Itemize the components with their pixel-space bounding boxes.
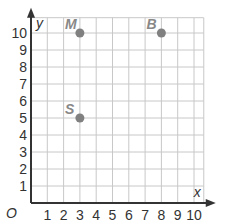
- x-tick-label: 2: [60, 207, 68, 222]
- x-tick-label: 1: [43, 207, 51, 222]
- y-tick-label: 8: [19, 59, 27, 75]
- x-tick-label: 5: [109, 207, 117, 222]
- point-m-label: M: [65, 16, 77, 32]
- x-tick-label: 9: [174, 207, 182, 222]
- y-tick-label: 4: [19, 127, 27, 143]
- y-tick-label: 9: [19, 42, 27, 58]
- x-tick-label: 6: [125, 207, 133, 222]
- x-axis-label: x: [193, 184, 202, 200]
- x-tick-label: 7: [141, 207, 149, 222]
- point-s-label: S: [65, 101, 75, 117]
- point-b-marker: [157, 29, 166, 38]
- x-axis-arrow-icon: [206, 199, 216, 207]
- origin-label: O: [6, 205, 17, 221]
- y-tick-label: 3: [19, 144, 27, 160]
- y-tick-label: 5: [19, 110, 27, 126]
- y-tick-label: 6: [19, 93, 27, 109]
- coordinate-grid: 1234567891012345678910OxyMBS: [0, 0, 226, 222]
- x-tick-label: 8: [158, 207, 166, 222]
- point-b-label: B: [146, 16, 156, 32]
- x-tick-label: 4: [92, 207, 100, 222]
- y-axis-label: y: [35, 15, 44, 31]
- y-tick-label: 10: [11, 25, 27, 41]
- x-tick-label: 10: [186, 207, 202, 222]
- y-axis-arrow-icon: [27, 8, 35, 18]
- y-tick-label: 2: [19, 161, 27, 177]
- y-tick-label: 7: [19, 76, 27, 92]
- point-m-marker: [75, 29, 84, 38]
- point-s-marker: [75, 114, 84, 123]
- x-tick-label: 3: [76, 207, 84, 222]
- y-tick-label: 1: [19, 178, 27, 194]
